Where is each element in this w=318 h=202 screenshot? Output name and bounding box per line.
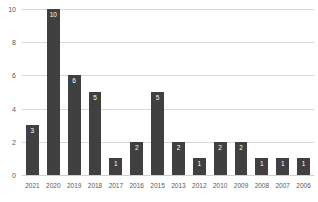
bar[interactable]: 10: [47, 9, 60, 175]
bar-slot: 5: [147, 9, 168, 175]
bar-slot: 2: [210, 9, 231, 175]
bar-slot: 1: [293, 9, 314, 175]
x-axis-tick-label: 2021: [22, 179, 43, 193]
bar[interactable]: 5: [89, 92, 102, 175]
bar-value-label: 1: [260, 161, 264, 168]
x-axis-tick-label: 2009: [231, 179, 252, 193]
y-axis-tick-label: 10: [8, 6, 16, 13]
x-axis-tick-label: 2012: [189, 179, 210, 193]
bar-value-label: 6: [72, 78, 76, 85]
x-axis-tick-label: 2010: [210, 179, 231, 193]
bar-slot: 2: [126, 9, 147, 175]
x-axis-tick-label: 2016: [126, 179, 147, 193]
bar[interactable]: 2: [214, 142, 227, 175]
y-axis-tick-label: 8: [12, 39, 16, 46]
bar-slot: 1: [189, 9, 210, 175]
x-axis-tick-label: 2015: [147, 179, 168, 193]
bar-slot: 2: [168, 9, 189, 175]
bar-value-label: 5: [156, 95, 160, 102]
bar[interactable]: 5: [151, 92, 164, 175]
bar[interactable]: 1: [255, 158, 268, 175]
gridline: [22, 175, 314, 176]
bar-series: 310651252122111: [22, 9, 314, 175]
bar-value-label: 1: [114, 161, 118, 168]
x-axis-tick-label: 2008: [251, 179, 272, 193]
bar-slot: 6: [64, 9, 85, 175]
bar-value-label: 1: [302, 161, 306, 168]
bar[interactable]: 6: [68, 75, 81, 175]
bar[interactable]: 2: [130, 142, 143, 175]
bar-value-label: 2: [239, 145, 243, 152]
bar-slot: 2: [231, 9, 252, 175]
bar[interactable]: 1: [276, 158, 289, 175]
bar-slot: 5: [85, 9, 106, 175]
bar-slot: 1: [272, 9, 293, 175]
x-axis-tick-label: 2018: [85, 179, 106, 193]
bar[interactable]: 2: [172, 142, 185, 175]
y-axis-tick-label: 2: [12, 138, 16, 145]
bar-slot: 1: [105, 9, 126, 175]
bar-slot: 10: [43, 9, 64, 175]
x-axis-tick-label: 2006: [293, 179, 314, 193]
y-axis: 0246810: [0, 9, 20, 175]
bar-value-label: 1: [197, 161, 201, 168]
bar-value-label: 2: [218, 145, 222, 152]
bar-slot: 3: [22, 9, 43, 175]
bar[interactable]: 1: [297, 158, 310, 175]
bar[interactable]: 2: [235, 142, 248, 175]
y-axis-tick-label: 4: [12, 105, 16, 112]
x-axis-tick-label: 2007: [272, 179, 293, 193]
bar-value-label: 3: [31, 128, 35, 135]
bar-value-label: 2: [177, 145, 181, 152]
x-axis-tick-label: 2013: [168, 179, 189, 193]
bar[interactable]: 1: [109, 158, 122, 175]
bar-value-label: 2: [135, 145, 139, 152]
x-axis-tick-label: 2020: [43, 179, 64, 193]
plot-area: 310651252122111: [22, 9, 314, 175]
bar-value-label: 1: [281, 161, 285, 168]
x-axis-tick-label: 2017: [105, 179, 126, 193]
bar-value-label: 5: [93, 95, 97, 102]
y-axis-tick-label: 0: [12, 172, 16, 179]
bar-slot: 1: [251, 9, 272, 175]
bar-value-label: 10: [50, 12, 57, 19]
y-axis-tick-label: 6: [12, 72, 16, 79]
bar[interactable]: 3: [26, 125, 39, 175]
bar-chart: 0246810 310651252122111 2021202020192018…: [0, 0, 318, 202]
x-axis: 2021202020192018201720162015201320122010…: [22, 179, 314, 193]
bar[interactable]: 1: [193, 158, 206, 175]
x-axis-tick-label: 2019: [64, 179, 85, 193]
